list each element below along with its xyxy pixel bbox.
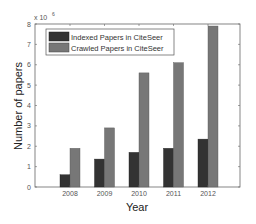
y-tick-label: 2 — [27, 143, 31, 150]
y-tick-label: 6 — [27, 61, 31, 68]
y-exponent-power: 6 — [52, 11, 55, 17]
bar-chart: 012345678 20082009201020112012 x 10 6 Nu… — [0, 0, 256, 224]
x-tick-label: 2011 — [166, 190, 181, 197]
x-tick-label: 2012 — [200, 190, 216, 197]
legend-label-indexed: Indexed Papers in CiteSeer — [71, 33, 163, 42]
bar-indexed-2010 — [129, 152, 139, 187]
x-tick-label: 2008 — [62, 190, 78, 197]
legend-swatch-crawled — [49, 43, 69, 52]
bar-crawled-2010 — [139, 73, 149, 187]
bar-indexed-2008 — [60, 175, 70, 187]
y-tick-label: 8 — [27, 21, 31, 28]
y-tick-label: 0 — [27, 184, 31, 191]
y-tick-label: 4 — [27, 102, 31, 109]
x-tick-label: 2010 — [131, 190, 147, 197]
y-tick-label: 3 — [27, 122, 31, 129]
bar-indexed-2011 — [164, 148, 174, 187]
y-axis-title: Number of papers — [12, 61, 24, 150]
legend: Indexed Papers in CiteSeer Crawled Paper… — [46, 29, 174, 55]
legend-label-crawled: Crawled Papers in CiteSeer — [71, 44, 164, 53]
y-tick-label: 7 — [27, 41, 31, 48]
bar-indexed-2012 — [198, 139, 208, 187]
bar-crawled-2008 — [70, 148, 80, 187]
bar-indexed-2009 — [95, 159, 105, 187]
legend-swatch-indexed — [49, 32, 69, 41]
bar-crawled-2009 — [105, 128, 115, 187]
y-exponent-base: x 10 — [34, 14, 47, 21]
x-tick-label: 2009 — [97, 190, 113, 197]
bar-crawled-2012 — [208, 26, 218, 187]
y-tick-label: 5 — [27, 82, 31, 89]
bar-crawled-2011 — [174, 63, 184, 187]
x-axis-title: Year — [126, 201, 149, 213]
y-tick-label: 1 — [27, 163, 31, 170]
